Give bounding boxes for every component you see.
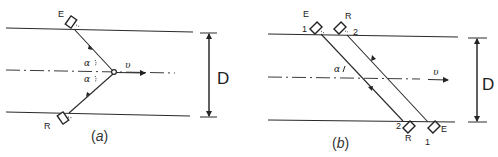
diameter-label: D: [482, 75, 494, 94]
velocity-label: υ: [433, 67, 439, 77]
emitter-1-bottom-transducer-icon: [428, 121, 440, 133]
panel-caption-b: (b): [332, 135, 349, 151]
angle-arc-icon: [95, 60, 96, 66]
bottom-receiver-label: R: [405, 133, 412, 143]
emitter-label: E: [58, 9, 64, 19]
panel-a: E R υ α α D (a): [6, 9, 229, 144]
emitter-transducer-icon: [65, 16, 80, 28]
pipe-top-wall: [268, 34, 458, 37]
path-arrow-icon: [371, 55, 376, 61]
sound-path-down: [74, 29, 113, 71]
diameter-label: D: [217, 69, 229, 88]
top-emitter-label: E: [303, 9, 309, 19]
receiver-2-bottom-transducer-icon: [403, 121, 415, 133]
pipe-top-wall: [6, 28, 193, 32]
angle-arc-icon: [95, 76, 96, 82]
bottom-emitter-label: E: [441, 124, 447, 134]
panel-b: E 1 R 2 2 R E 1 α υ: [268, 9, 494, 151]
emitter-1-transducer-icon: [310, 22, 324, 34]
pipe-bottom-wall: [6, 112, 190, 116]
path-arrow-icon: [368, 86, 373, 91]
panel-caption-a: (a): [91, 128, 108, 144]
sound-path-up: [69, 74, 113, 113]
sound-path-1: [321, 34, 403, 121]
velocity-arrow-icon: [428, 80, 448, 81]
angle-arc-icon: [343, 66, 345, 72]
angle-label: α: [334, 64, 340, 74]
path-arrow-icon: [88, 45, 93, 50]
top-receiver-label: R: [345, 11, 352, 21]
top-emitter-index: 1: [302, 24, 307, 34]
receiver-2-transducer-icon: [334, 22, 348, 34]
bottom-emitter-index: 1: [425, 137, 430, 147]
angle-label-upper: α: [84, 58, 90, 68]
receiver-label: R: [44, 121, 51, 131]
top-receiver-index: 2: [353, 27, 358, 37]
pipe-centerline: [268, 77, 420, 79]
velocity-arrow-icon: [117, 73, 145, 74]
velocity-label: υ: [125, 60, 131, 70]
pipe-centerline: [6, 70, 175, 73]
ultrasonic-flowmeter-diagram: E R υ α α D (a): [0, 0, 498, 157]
angle-label-lower: α: [84, 74, 90, 84]
bottom-receiver-index: 2: [396, 121, 401, 131]
reflection-point-icon: [112, 70, 117, 75]
